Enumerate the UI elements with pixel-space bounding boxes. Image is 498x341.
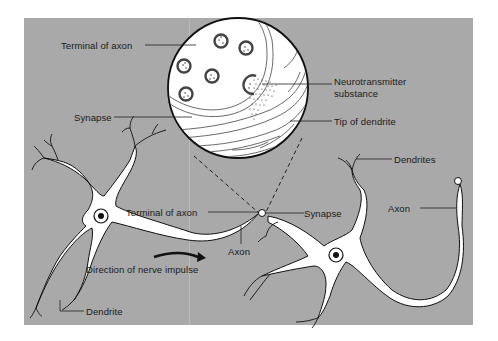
right-neuron [262,170,463,318]
left-neuron [36,146,258,308]
label-terminal-of-axon-mid: Terminal of axon [126,207,197,218]
label-neurotransmitter-line2: substance [334,88,378,99]
axon-terminal-knob [455,178,462,185]
neuron-illustration [0,0,498,341]
magnified-synapse-view [160,16,308,158]
impulse-arrow-icon [154,253,198,257]
right-nucleus [329,248,343,262]
label-terminal-of-axon-top: Terminal of axon [61,40,132,51]
label-tip-of-dendrite: Tip of dendrite [334,116,396,127]
label-synapse-left: Synapse [74,112,112,123]
left-nucleus [94,209,108,223]
label-synapse-mid: Synapse [304,208,342,219]
label-dendrite-bottom: Dendrite [86,306,123,317]
label-axon-right: Axon [388,203,410,214]
synapse-knob [259,210,266,217]
label-dendrites: Dendrites [394,154,436,165]
label-direction-of-nerve-impulse: Direction of nerve impulse [86,264,198,275]
label-axon-mid: Axon [228,246,250,257]
label-neurotransmitter-line1: Neurotransmitter [334,76,406,87]
